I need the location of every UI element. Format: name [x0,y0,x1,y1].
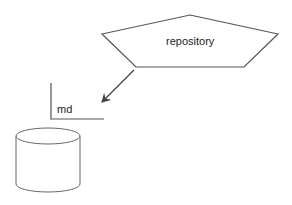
database-cylinder[interactable] [16,128,80,192]
md-label: md [57,103,72,115]
diagram-canvas [0,0,292,205]
repository-label: repository [166,35,214,47]
repository-to-md-arrow [102,70,134,102]
